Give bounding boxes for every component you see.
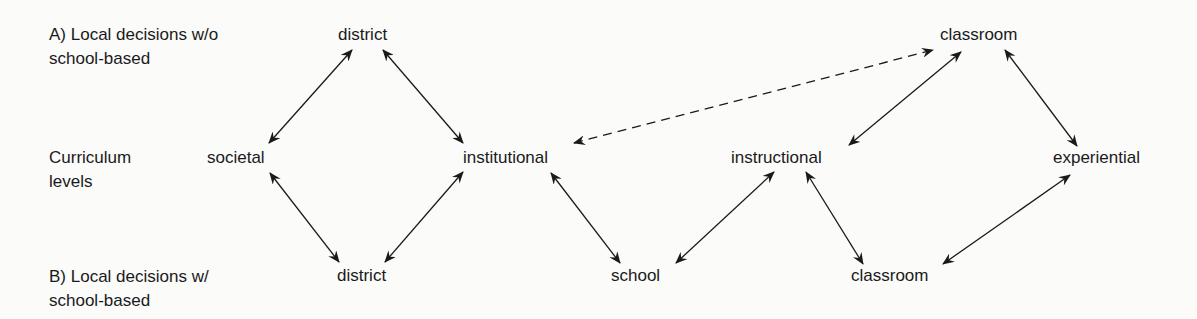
row-label-b-line1: B) Local decisions w/	[49, 265, 209, 289]
node-societal: societal	[207, 148, 265, 168]
edge-classroom-instructional	[849, 52, 961, 145]
edge-classroom-experiential	[1005, 50, 1077, 146]
edge-societal-district	[270, 173, 339, 262]
node-district-top: district	[338, 25, 387, 45]
row-label-a-line2: school-based	[49, 47, 218, 71]
edge-instructional-school	[676, 172, 774, 263]
node-district-bottom: district	[337, 266, 386, 286]
node-institutional: institutional	[463, 148, 548, 168]
edge-instructional-classroom	[806, 172, 863, 264]
row-label-a-line1: A) Local decisions w/o	[49, 23, 218, 47]
row-label-curriculum-levels: Curriculum levels	[49, 146, 131, 194]
node-experiential: experiential	[1053, 148, 1140, 168]
edge-institutional-classroom-dashed	[574, 50, 933, 143]
node-classroom-bottom: classroom	[851, 266, 928, 286]
node-instructional: instructional	[731, 148, 822, 168]
node-classroom-top: classroom	[940, 25, 1017, 45]
edge-institutional-district	[385, 172, 463, 262]
edge-experiential-classroom	[943, 175, 1070, 264]
row-label-a: A) Local decisions w/o school-based	[49, 23, 218, 71]
edge-district-societal	[269, 50, 352, 143]
row-label-curriculum-line1: Curriculum	[49, 146, 131, 170]
row-label-curriculum-line2: levels	[49, 170, 131, 194]
curriculum-levels-diagram: A) Local decisions w/o school-based Curr…	[0, 0, 1197, 319]
node-school: school	[611, 266, 660, 286]
edge-district-institutional	[383, 50, 463, 143]
row-label-b: B) Local decisions w/ school-based	[49, 265, 209, 313]
row-label-b-line2: school-based	[49, 289, 209, 313]
edge-institutional-school	[551, 173, 620, 263]
